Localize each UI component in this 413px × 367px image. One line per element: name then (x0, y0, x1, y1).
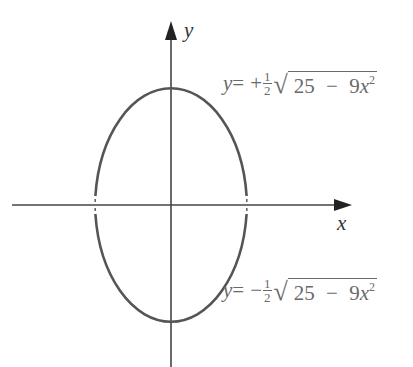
upper-equation-label: y = + 1 2 √ 25 − 9x2 (223, 70, 377, 97)
eq-lhs: y (223, 280, 232, 301)
sqrt-icon: √ (274, 72, 288, 98)
eq-fraction: 1 2 (263, 70, 272, 97)
eq-sign: + (250, 73, 262, 94)
lower-equation-label: y = − 1 2 √ 25 − 9x2 (223, 277, 377, 304)
x-axis-arrow-icon (334, 199, 352, 211)
x-axis-label: x (337, 211, 346, 236)
ellipse-diagram (0, 0, 413, 367)
eq-equals: = (232, 280, 244, 301)
eq-equals: = (232, 73, 244, 94)
eq-fraction: 1 2 (263, 277, 272, 304)
sqrt-icon: √ (274, 279, 288, 305)
eq-sign: − (250, 280, 262, 301)
y-axis-arrow-icon (165, 21, 177, 40)
eq-radicand: 25 − 9x2 (288, 71, 377, 97)
eq-lhs: y (223, 73, 232, 94)
eq-radicand: 25 − 9x2 (288, 278, 377, 304)
y-axis-label: y (184, 18, 193, 43)
